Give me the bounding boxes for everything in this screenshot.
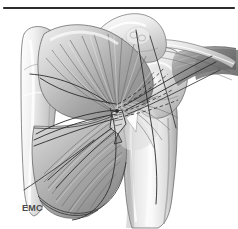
shoulder-anatomy-illustration: EMC (0, 0, 238, 229)
illustration-canvas: EMC (0, 0, 238, 229)
artist-signature: EMC (22, 203, 43, 213)
